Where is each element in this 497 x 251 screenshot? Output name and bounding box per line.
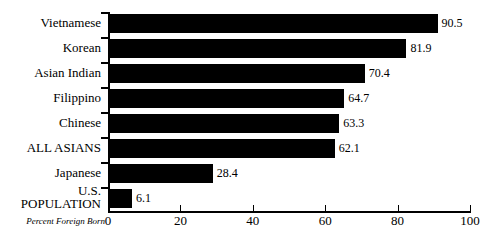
category-tick-3	[101, 87, 110, 89]
x-tick-label-40: 40	[246, 214, 259, 228]
plot-area: 90.5 81.9 70.4 64.7 63.3 62.1 28.4 6.1	[108, 12, 470, 212]
value-axis-line	[108, 211, 471, 213]
category-tick-2	[101, 62, 110, 64]
value-label-vietnamese: 90.5	[442, 14, 463, 33]
value-label-asian-indian: 70.4	[369, 64, 390, 83]
x-tick-100	[470, 205, 471, 211]
value-label-japanese: 28.4	[217, 164, 238, 183]
category-tick-4	[101, 112, 110, 114]
bar-japanese	[110, 164, 213, 183]
category-tick-0	[101, 12, 110, 14]
category-tick-5	[101, 137, 110, 139]
bar-all-asians	[110, 139, 335, 158]
value-label-korean: 81.9	[410, 39, 431, 58]
bar-chart: Vietnamese Korean Asian Indian Filippino…	[0, 0, 497, 251]
category-label-korean: Korean	[63, 41, 101, 54]
category-label-all-asians: ALL ASIANS	[27, 141, 101, 154]
x-tick-label-60: 60	[319, 214, 332, 228]
bar-filippino	[110, 89, 344, 108]
x-tick-label-0: 0	[105, 214, 112, 228]
bar-korean	[110, 39, 406, 58]
bar-us-population	[110, 189, 132, 208]
us-population-line-2: POPULATION	[0, 197, 101, 210]
bar-asian-indian	[110, 64, 365, 83]
category-label-japanese: Japanese	[55, 166, 101, 179]
value-label-filippino: 64.7	[348, 89, 369, 108]
bar-chinese	[110, 114, 339, 133]
category-label-filippino: Filippino	[53, 91, 101, 104]
x-tick-40	[253, 205, 254, 211]
value-label-chinese: 63.3	[343, 114, 364, 133]
category-label-us-population: U.S. POPULATION	[0, 184, 101, 210]
x-tick-80	[398, 205, 399, 211]
category-tick-6	[101, 162, 110, 164]
value-label-all-asians: 62.1	[339, 139, 360, 158]
category-tick-7	[101, 187, 110, 189]
x-tick-label-100: 100	[460, 214, 480, 228]
x-tick-label-80: 80	[391, 214, 404, 228]
x-tick-label-20: 20	[174, 214, 187, 228]
value-label-us-population: 6.1	[136, 189, 151, 208]
category-label-asian-indian: Asian Indian	[34, 66, 101, 79]
x-tick-60	[325, 205, 326, 211]
category-tick-1	[101, 37, 110, 39]
category-label-vietnamese: Vietnamese	[40, 16, 101, 29]
x-axis-caption: Percent Foreign Born	[26, 216, 105, 227]
x-tick-0	[108, 205, 109, 211]
category-label-chinese: Chinese	[59, 116, 101, 129]
x-tick-20	[180, 205, 181, 211]
bar-vietnamese	[110, 14, 438, 33]
